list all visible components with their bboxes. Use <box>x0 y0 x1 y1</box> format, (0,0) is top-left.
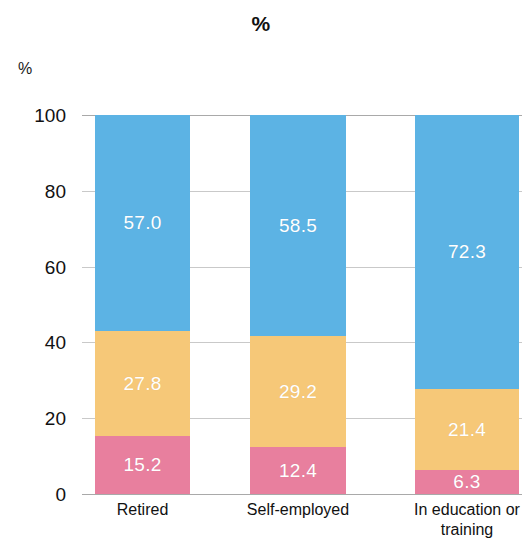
stacked-bar-chart: % % 10080604020057.027.815.258.529.212.4… <box>0 0 522 539</box>
x-axis-category-label-line: Self-employed <box>228 500 368 520</box>
bar-segment-value-label: 21.4 <box>448 419 486 441</box>
y-axis-tick-label: 60 <box>45 257 82 279</box>
bar-segment-middle-segment[interactable]: 29.2 <box>250 336 346 447</box>
x-axis-category-label: In education ortraining <box>393 500 522 539</box>
x-axis-category-label: Self-employed <box>228 500 368 520</box>
y-axis-tick-label: 20 <box>45 408 82 430</box>
bar-segment-top-segment[interactable]: 72.3 <box>415 115 519 389</box>
bar-segment-value-label: 29.2 <box>279 381 317 403</box>
bar-segment-value-label: 27.8 <box>123 373 161 395</box>
bar-segment-value-label: 6.3 <box>453 471 480 493</box>
bar-segment-middle-segment[interactable]: 27.8 <box>95 331 190 436</box>
chart-title: % <box>0 12 522 36</box>
bar-segment-bottom-segment[interactable]: 12.4 <box>250 447 346 494</box>
bar-segment-value-label: 15.2 <box>123 454 161 476</box>
bar-retired[interactable]: 57.027.815.2 <box>95 115 190 494</box>
bar-segment-bottom-segment[interactable]: 15.2 <box>95 436 190 494</box>
bar-segment-middle-segment[interactable]: 21.4 <box>415 389 519 470</box>
plot-area: 10080604020057.027.815.258.529.212.472.3… <box>82 115 522 494</box>
x-axis-category-label-line: training <box>393 520 522 539</box>
bar-segment-value-label: 72.3 <box>448 241 486 263</box>
bar-segment-value-label: 12.4 <box>279 460 317 482</box>
x-axis-category-label-line: In education or <box>393 500 522 520</box>
bar-segment-top-segment[interactable]: 57.0 <box>95 115 190 331</box>
bar-in-education-or-training[interactable]: 72.321.46.3 <box>415 115 519 494</box>
y-axis-tick-label: 80 <box>45 181 82 203</box>
y-axis-tick-label: 100 <box>34 105 82 127</box>
x-axis-category-label-line: Retired <box>73 500 212 520</box>
bar-segment-bottom-segment[interactable]: 6.3 <box>415 470 519 494</box>
y-axis-unit-label: % <box>18 60 32 78</box>
y-axis-tick-label: 40 <box>45 332 82 354</box>
bar-segment-top-segment[interactable]: 58.5 <box>250 115 346 337</box>
x-axis-category-label: Retired <box>73 500 212 520</box>
y-axis-tick-0: 0 <box>82 494 522 495</box>
bar-segment-value-label: 57.0 <box>123 212 161 234</box>
bar-self-employed[interactable]: 58.529.212.4 <box>250 115 346 494</box>
bar-segment-value-label: 58.5 <box>279 215 317 237</box>
